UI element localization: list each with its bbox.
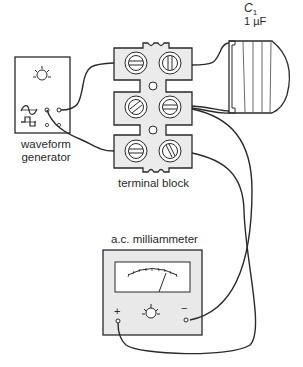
- screw-terminal: [125, 140, 147, 162]
- milliammeter-label: a.c. milliammeter: [111, 233, 198, 245]
- screw-terminal: [159, 96, 181, 118]
- terminal-block-label: terminal block: [118, 177, 189, 189]
- screw-terminal: [125, 52, 147, 74]
- minus-terminal: [184, 318, 188, 322]
- plus-symbol: +: [114, 305, 120, 317]
- output-socket: [57, 108, 61, 112]
- capacitor-symbol: C: [244, 1, 253, 15]
- terminal-block: [114, 43, 192, 172]
- waveform-generator: [15, 57, 70, 133]
- minus-symbol: −: [181, 302, 187, 314]
- capacitor: [229, 41, 289, 113]
- screw-terminal: [159, 140, 181, 162]
- waveform-generator-label: waveform generator: [17, 138, 75, 164]
- milliammeter: [103, 250, 202, 335]
- output-socket: [45, 123, 48, 126]
- label-line: waveform: [17, 138, 75, 151]
- screw-terminal: [159, 52, 181, 74]
- screw-terminal: [125, 96, 147, 118]
- plus-terminal: [116, 319, 120, 323]
- label-line: generator: [17, 151, 75, 164]
- capacitor-value: 1 µF: [244, 15, 266, 27]
